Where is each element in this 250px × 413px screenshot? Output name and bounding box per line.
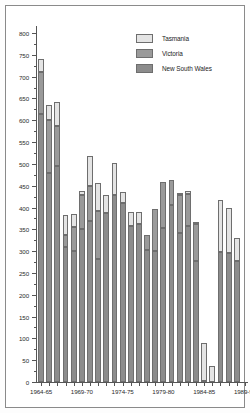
bar-stack[interactable] — [152, 209, 158, 382]
bar-stack[interactable] — [160, 182, 166, 382]
bar-stack[interactable] — [103, 195, 109, 382]
bar-stack[interactable] — [120, 192, 126, 382]
y-axis-tick-label: 150 — [19, 313, 29, 320]
x-axis-line — [36, 382, 248, 383]
bar-stack[interactable] — [234, 238, 240, 382]
bar-stack[interactable] — [218, 200, 224, 382]
y-axis-tick: 500 — [32, 164, 36, 165]
bar-segment — [87, 221, 93, 382]
x-axis-tick — [98, 383, 99, 386]
y-axis-tick-label: 50 — [22, 357, 29, 364]
bar-segment — [71, 214, 77, 227]
bar-segment — [152, 209, 158, 251]
bar-segment — [201, 343, 207, 381]
y-axis-tick: 50 — [32, 360, 36, 361]
bar-segment — [185, 226, 191, 382]
y-axis-tick-label: 300 — [19, 248, 29, 255]
bar-stack[interactable] — [38, 59, 44, 382]
x-axis-tick — [212, 383, 213, 386]
x-axis-tick — [49, 383, 50, 386]
bar-stack[interactable] — [71, 214, 77, 382]
bar-stack[interactable] — [87, 156, 93, 382]
bar-segment — [177, 233, 183, 382]
x-axis-tick — [41, 383, 42, 386]
bar-stack[interactable] — [185, 191, 191, 383]
bar-segment — [226, 253, 232, 382]
y-axis-tick-label: 400 — [19, 204, 29, 211]
x-axis-tick — [139, 383, 140, 386]
y-axis-minor-tick — [34, 109, 36, 110]
bar-segment — [38, 59, 44, 72]
y-axis-minor-tick — [34, 44, 36, 45]
legend-swatch — [136, 49, 153, 58]
bar-segment — [46, 120, 52, 172]
x-axis-tick — [131, 383, 132, 386]
bar-stack[interactable] — [46, 105, 52, 382]
bar-stack[interactable] — [63, 214, 69, 382]
bar-segment — [209, 366, 215, 382]
x-axis-tick — [114, 383, 115, 386]
y-axis-tick-label: 250 — [19, 269, 29, 276]
y-axis-tick: 0 — [32, 382, 36, 383]
x-axis-tick — [90, 383, 91, 386]
bar-stack[interactable] — [95, 183, 101, 382]
x-axis-tick — [172, 383, 173, 386]
bar-stack[interactable] — [136, 212, 142, 382]
legend-item[interactable]: Tasmania — [136, 31, 212, 46]
y-axis-minor-tick — [34, 327, 36, 328]
y-axis-tick: 100 — [32, 338, 36, 339]
y-axis-tick: 550 — [32, 142, 36, 143]
y-axis-tick: 150 — [32, 317, 36, 318]
y-axis-tick-label: 700 — [19, 73, 29, 80]
x-axis-tick-label: 1964-65 — [30, 388, 52, 395]
y-axis-tick-label: 200 — [19, 291, 29, 298]
bar-segment — [152, 251, 158, 382]
bar-segment — [234, 238, 240, 261]
x-axis-tick — [66, 383, 67, 386]
bar-stack[interactable] — [54, 102, 60, 383]
bar-segment — [136, 212, 142, 224]
bar-segment — [218, 252, 224, 382]
x-axis-tick-label: 1974-75 — [112, 388, 134, 395]
y-axis-minor-tick — [34, 197, 36, 198]
bar-segment — [38, 72, 44, 114]
bar-segment — [234, 261, 240, 382]
y-axis-tick: 800 — [32, 33, 36, 34]
bar-stack[interactable] — [144, 235, 150, 382]
y-axis-tick: 450 — [32, 186, 36, 187]
y-axis-minor-tick — [34, 371, 36, 372]
x-axis-tick-label: 1984-85 — [193, 388, 215, 395]
bar-segment — [54, 102, 60, 126]
bar-segment — [160, 182, 166, 228]
bar-segment — [177, 195, 183, 233]
bar-segment — [46, 173, 52, 382]
y-axis-tick-label: 450 — [19, 182, 29, 189]
bar-segment — [95, 183, 101, 210]
chart-figure: 0501001502002503003504004505005506006507… — [0, 0, 250, 413]
y-axis-tick: 300 — [32, 251, 36, 252]
bar-segment — [63, 247, 69, 382]
bar-segment — [144, 250, 150, 382]
legend-item[interactable]: New South Wales — [136, 61, 212, 76]
bar-stack[interactable] — [193, 222, 199, 382]
legend-swatch — [136, 64, 153, 73]
y-axis-tick: 200 — [32, 295, 36, 296]
bar-segment — [193, 222, 199, 224]
bar-stack[interactable] — [209, 366, 215, 382]
x-axis-tick — [106, 383, 107, 386]
y-axis-minor-tick — [34, 218, 36, 219]
bar-segment — [120, 203, 126, 382]
bar-stack[interactable] — [169, 180, 175, 382]
y-axis-minor-tick — [34, 284, 36, 285]
legend-item[interactable]: Victoria — [136, 46, 212, 61]
bar-stack[interactable] — [177, 193, 183, 382]
bar-stack[interactable] — [79, 191, 85, 383]
bar-stack[interactable] — [112, 163, 118, 382]
bar-stack[interactable] — [201, 343, 207, 382]
bar-segment — [185, 191, 191, 195]
y-axis-tick-label: 100 — [19, 335, 29, 342]
bar-segment — [160, 228, 166, 382]
bar-stack[interactable] — [226, 208, 232, 382]
y-axis-minor-tick — [34, 262, 36, 263]
bar-stack[interactable] — [128, 212, 134, 382]
